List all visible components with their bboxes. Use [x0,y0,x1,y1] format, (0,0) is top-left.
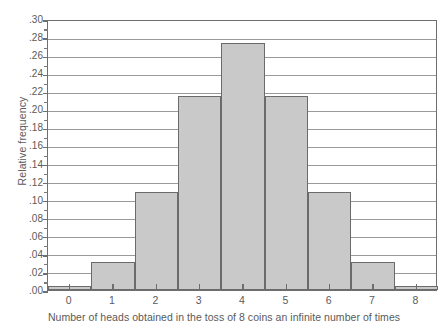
x-axis-tick [416,284,417,290]
y-axis-tick-label: .30 [19,15,43,25]
x-axis-tick [329,284,330,290]
histogram-bar [221,43,264,290]
y-axis-tick-label: .26 [19,51,43,61]
x-axis-tick [156,284,157,290]
y-axis-tick-label: .24 [19,69,43,79]
x-axis-tick-label: 3 [179,294,219,306]
y-axis-tick-label: .20 [19,105,43,115]
x-axis-tick [112,284,113,290]
y-axis-tick-label: .28 [19,33,43,43]
x-axis-tick-label: 2 [135,294,175,306]
y-axis-tick-label: .22 [19,87,43,97]
histogram-bar [265,96,308,290]
y-axis-tick-label: .12 [19,178,43,188]
y-axis-tick-label: .00 [19,286,43,296]
y-axis-tick-label: .10 [19,196,43,206]
bar-series [48,21,436,290]
histogram-figure: Relative frequency .00.02.04.06.08.10.12… [0,0,448,333]
y-axis-major-tick [43,291,48,292]
y-axis-tick-label: .04 [19,250,43,260]
plot-area [47,20,437,291]
y-axis-tick-label: .18 [19,123,43,133]
histogram-bar [135,192,178,290]
y-axis-tick-label: .08 [19,214,43,224]
x-axis-tick-label: 8 [395,294,435,306]
y-axis-tick-label: .14 [19,160,43,170]
x-axis-tick [69,284,70,290]
y-axis-tick-label: .16 [19,141,43,151]
x-axis-tick [286,284,287,290]
x-axis-tick-label: 0 [49,294,89,306]
histogram-bar [308,192,351,290]
x-axis-tick [372,284,373,290]
x-axis-tick-label: 1 [92,294,132,306]
x-axis-tick [242,284,243,290]
x-axis-tick-label: 6 [309,294,349,306]
x-axis-tick-label: 7 [352,294,392,306]
x-axis-tick [199,284,200,290]
y-axis-tick-label: .02 [19,268,43,278]
histogram-bar [178,96,221,290]
y-axis-tick-label: .06 [19,232,43,242]
x-axis-tick-label: 4 [222,294,262,306]
y-axis-tick-labels: .00.02.04.06.08.10.12.14.16.18.20.22.24.… [19,0,43,333]
x-axis-title: Number of heads obtained in the toss of … [0,311,448,323]
x-axis-tick-label: 5 [265,294,305,306]
